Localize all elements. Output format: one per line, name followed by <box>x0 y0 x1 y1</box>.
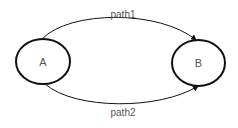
node-a: A <box>16 39 70 84</box>
node-label-b: B <box>195 57 202 69</box>
node-label-a: A <box>39 56 47 68</box>
edge-label-path2: path2 <box>110 107 135 118</box>
node-b: B <box>172 40 225 86</box>
diagram-canvas: path1 path2 A B <box>0 0 238 128</box>
edge-path1: path1 <box>42 9 196 40</box>
edge-label-path1: path1 <box>110 9 135 20</box>
edge-path2: path2 <box>45 84 198 118</box>
